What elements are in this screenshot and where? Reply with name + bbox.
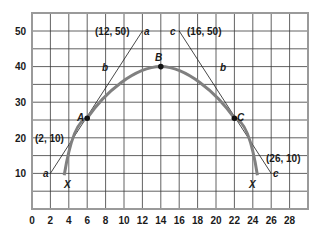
y-tick-40: 40 bbox=[15, 61, 27, 72]
label-curve-x-left: X bbox=[63, 179, 72, 190]
label-line-c-top: c bbox=[170, 26, 176, 37]
plot-border bbox=[32, 13, 308, 209]
y-axis-ticks: 50 40 30 20 10 bbox=[15, 26, 27, 180]
grid bbox=[32, 13, 308, 209]
point-b bbox=[158, 64, 164, 70]
x-tick-14: 14 bbox=[155, 215, 167, 226]
label-point-b: B bbox=[155, 52, 162, 63]
x-tick-8: 8 bbox=[103, 215, 109, 226]
x-tick-24: 24 bbox=[247, 215, 259, 226]
label-coord-12-50: (12, 50) bbox=[95, 26, 129, 37]
label-point-a: A bbox=[76, 112, 84, 123]
point-a bbox=[84, 115, 90, 121]
label-line-c-bottom: c bbox=[273, 168, 279, 179]
x-tick-0: 0 bbox=[29, 215, 35, 226]
y-tick-10: 10 bbox=[15, 168, 27, 179]
label-line-a-bottom: a bbox=[43, 168, 49, 179]
y-tick-30: 30 bbox=[15, 97, 27, 108]
x-tick-18: 18 bbox=[192, 215, 204, 226]
label-point-c: C bbox=[237, 112, 245, 123]
x-tick-6: 6 bbox=[84, 215, 90, 226]
label-coord-2-10: (2, 10) bbox=[35, 133, 64, 144]
label-coord-26-10: (26, 10) bbox=[266, 153, 300, 164]
label-curve-x-right: X bbox=[248, 179, 257, 190]
x-tick-26: 26 bbox=[266, 215, 278, 226]
y-tick-20: 20 bbox=[15, 133, 27, 144]
x-axis-ticks: 0 2 4 6 8 10 12 14 16 18 20 22 24 26 28 bbox=[29, 215, 295, 226]
x-tick-12: 12 bbox=[137, 215, 149, 226]
tangent-diagram: 50 40 30 20 10 0 2 4 6 8 10 12 14 16 18 … bbox=[0, 0, 322, 232]
label-line-b-right: b bbox=[220, 62, 226, 73]
x-tick-10: 10 bbox=[118, 215, 130, 226]
label-coord-16-50: (16, 50) bbox=[187, 26, 221, 37]
x-tick-28: 28 bbox=[284, 215, 296, 226]
x-tick-20: 20 bbox=[210, 215, 222, 226]
x-tick-16: 16 bbox=[174, 215, 186, 226]
x-tick-22: 22 bbox=[229, 215, 241, 226]
label-line-b-left: b bbox=[102, 62, 108, 73]
y-tick-50: 50 bbox=[15, 26, 27, 37]
x-tick-4: 4 bbox=[66, 215, 72, 226]
x-tick-2: 2 bbox=[48, 215, 54, 226]
label-line-a-top: a bbox=[144, 26, 150, 37]
